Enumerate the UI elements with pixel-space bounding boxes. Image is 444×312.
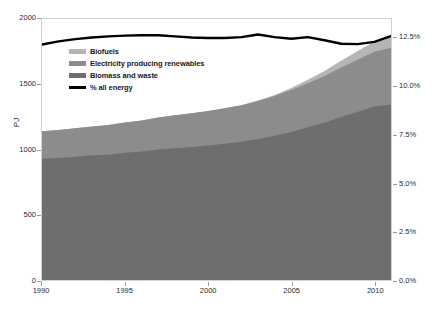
x-axis-tick-mark bbox=[125, 282, 126, 286]
legend-label: Electricity producing renewables bbox=[90, 59, 204, 68]
legend-label: % all energy bbox=[90, 83, 133, 92]
y-axis-tick-label: 0 bbox=[4, 277, 36, 285]
x-axis-tick-label: 2000 bbox=[188, 287, 228, 295]
chart-legend: BiofuelsElectricity producing renewables… bbox=[69, 46, 204, 94]
legend-item: Biomass and waste bbox=[69, 70, 204, 81]
y-axis-tick-label: 2000 bbox=[4, 14, 36, 22]
legend-swatch-area bbox=[69, 49, 86, 54]
y-axis-tick-mark bbox=[37, 215, 41, 216]
y2-axis-tick-label: 5.0% bbox=[399, 180, 443, 188]
x-axis-tick-label: 1995 bbox=[105, 287, 145, 295]
y2-axis-tick-label: 0.0% bbox=[399, 277, 443, 285]
legend-swatch-line bbox=[69, 86, 86, 89]
y2-axis-tick-label: 2.5% bbox=[399, 228, 443, 236]
legend-swatch-area bbox=[69, 73, 86, 78]
legend-item: Biofuels bbox=[69, 46, 204, 57]
x-axis-tick-label: 2005 bbox=[272, 287, 312, 295]
x-axis-tick-label: 2010 bbox=[355, 287, 395, 295]
y2-axis-tick-mark bbox=[393, 281, 397, 282]
legend-swatch-area bbox=[69, 61, 86, 66]
y-axis-tick-mark bbox=[37, 18, 41, 19]
y2-axis-tick-label: 7.5% bbox=[399, 131, 443, 139]
x-axis-tick-mark bbox=[375, 282, 376, 286]
y-axis-title: PJ bbox=[12, 111, 21, 135]
legend-label: Biofuels bbox=[90, 47, 119, 56]
x-axis-tick-mark bbox=[208, 282, 209, 286]
y-axis-tick-mark bbox=[37, 84, 41, 85]
chart-figure: PJ 05001000150020000.0%2.5%5.0%7.5%10.0%… bbox=[0, 0, 444, 312]
x-axis-tick-mark bbox=[41, 282, 42, 286]
y-axis-tick-mark bbox=[37, 150, 41, 151]
legend-label: Biomass and waste bbox=[90, 71, 158, 80]
y2-axis-tick-mark bbox=[393, 135, 397, 136]
line-percent-all-energy bbox=[42, 34, 391, 44]
y2-axis-tick-mark bbox=[393, 86, 397, 87]
y2-axis-tick-label: 10.0% bbox=[399, 82, 443, 90]
y2-axis-tick-mark bbox=[393, 232, 397, 233]
y2-axis-tick-mark bbox=[393, 37, 397, 38]
x-axis-tick-label: 1990 bbox=[21, 287, 61, 295]
y-axis-tick-label: 500 bbox=[4, 211, 36, 219]
legend-item: % all energy bbox=[69, 82, 204, 93]
y2-axis-tick-label: 12.5% bbox=[399, 33, 443, 41]
y-axis-tick-label: 1000 bbox=[4, 146, 36, 154]
y2-axis-tick-mark bbox=[393, 184, 397, 185]
legend-item: Electricity producing renewables bbox=[69, 58, 204, 69]
x-axis-tick-mark bbox=[292, 282, 293, 286]
y-axis-tick-label: 1500 bbox=[4, 80, 36, 88]
